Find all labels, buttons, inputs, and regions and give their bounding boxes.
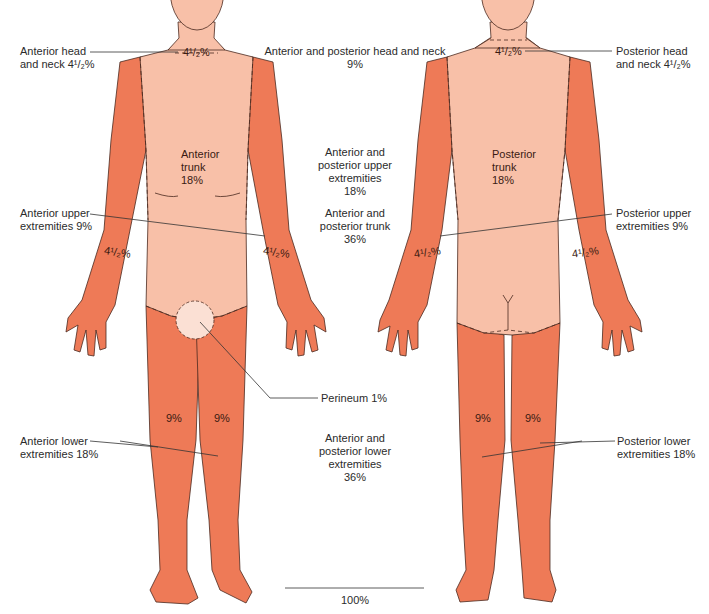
anterior-lower-label: Anterior lower extremities 18% (20, 435, 98, 461)
total-lower-extremities: Anterior and posterior lower extremities… (305, 432, 405, 484)
posterior-right-leg-value: 9% (525, 412, 541, 425)
posterior-left-leg-value: 9% (475, 412, 491, 425)
total-trunk: Anterior and posterior trunk 36% (305, 207, 405, 246)
perineum-label: Perineum 1% (321, 392, 387, 405)
posterior-trunk-label: Posterior trunk 18% (492, 148, 536, 187)
anterior-right-leg-value: 9% (214, 412, 230, 425)
posterior-right-leg (511, 323, 560, 602)
anterior-left-leg-value: 9% (166, 412, 182, 425)
posterior-upper-label: Posterior upper extremities 9% (616, 207, 691, 233)
anterior-left-leg (146, 306, 200, 604)
posterior-left-leg (456, 323, 505, 602)
posterior-figure (378, 0, 642, 602)
posterior-lower-label: Posterior lower extremities 18% (617, 435, 695, 461)
anterior-upper-label: Anterior upper extremities 9% (20, 207, 92, 233)
anterior-figure (66, 0, 326, 604)
anterior-perineum (176, 301, 214, 339)
anterior-trunk-label: Anterior trunk 18% (181, 148, 220, 187)
total-upper-extremities: Anterior and posterior upper extremities… (305, 146, 405, 198)
posterior-head-label: Posterior head and neck 4¹/₂% (616, 45, 691, 71)
anterior-head-value: 4¹/₂% (183, 46, 210, 59)
anterior-right-leg (196, 306, 252, 603)
grand-total: 100% (305, 594, 405, 607)
posterior-head-value: 4¹/₂% (495, 45, 522, 58)
anterior-head-label: Anterior head and neck 4¹/₂% (20, 45, 95, 71)
total-head-neck: Anterior and posterior head and neck 9% (255, 45, 455, 71)
